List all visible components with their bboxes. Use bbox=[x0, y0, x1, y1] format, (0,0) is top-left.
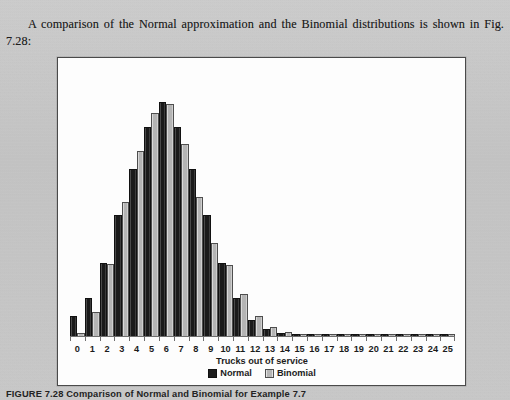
tick bbox=[307, 337, 322, 341]
x-tick-label: 6 bbox=[159, 343, 174, 355]
bar-normal-10 bbox=[218, 263, 225, 337]
bar-group bbox=[174, 86, 189, 337]
bar-group bbox=[85, 86, 100, 337]
chart-legend: NormalBinomial bbox=[65, 368, 459, 378]
tick bbox=[174, 337, 189, 341]
tick bbox=[100, 337, 115, 341]
bar-canvas bbox=[70, 86, 455, 337]
figure-caption: FIGURE 7.28 Comparison of Normal and Bin… bbox=[6, 389, 406, 399]
bar-group bbox=[159, 86, 174, 337]
bar-group bbox=[114, 86, 129, 337]
bar-binomial-4 bbox=[137, 151, 144, 337]
bar-binomial-7 bbox=[181, 144, 188, 337]
tick bbox=[263, 337, 278, 341]
legend-item-normal: Normal bbox=[208, 368, 252, 378]
bar-normal-12 bbox=[248, 320, 255, 337]
tick bbox=[218, 337, 233, 341]
tick bbox=[426, 337, 441, 341]
x-tick-label: 14 bbox=[277, 343, 292, 355]
tick bbox=[381, 337, 396, 341]
tick bbox=[337, 337, 352, 341]
bar-binomial-5 bbox=[151, 113, 158, 337]
bar-group bbox=[129, 86, 144, 337]
bar-normal-6 bbox=[159, 102, 166, 337]
bar-group bbox=[218, 86, 233, 337]
bar-group bbox=[426, 86, 441, 337]
legend-swatch-icon bbox=[265, 369, 274, 378]
bar-group bbox=[307, 86, 322, 337]
bar-binomial-10 bbox=[226, 265, 233, 337]
bar-group bbox=[144, 86, 159, 337]
bar-binomial-6 bbox=[166, 104, 173, 337]
bar-group bbox=[440, 86, 455, 337]
plot-area: 0123456789101112131415161718192021222324… bbox=[65, 62, 459, 337]
x-tick-label: 0 bbox=[70, 343, 85, 355]
figure-frame: 0123456789101112131415161718192021222324… bbox=[57, 57, 466, 386]
x-axis-title: Trucks out of service bbox=[65, 356, 459, 366]
bar-group bbox=[70, 86, 85, 337]
tick bbox=[277, 337, 292, 341]
tick bbox=[396, 337, 411, 341]
body-paragraph: A comparison of the Normal approximation… bbox=[6, 16, 504, 50]
legend-label: Binomial bbox=[277, 368, 316, 378]
x-axis-tick-labels: 0123456789101112131415161718192021222324… bbox=[70, 343, 455, 355]
tick bbox=[440, 337, 455, 341]
bar-binomial-9 bbox=[211, 243, 218, 337]
bar-group bbox=[322, 86, 337, 337]
x-tick-label: 13 bbox=[263, 343, 278, 355]
tick bbox=[129, 337, 144, 341]
x-tick-label: 8 bbox=[189, 343, 204, 355]
x-tick-label: 5 bbox=[144, 343, 159, 355]
x-tick-label: 24 bbox=[426, 343, 441, 355]
x-tick-label: 21 bbox=[381, 343, 396, 355]
x-tick-label: 17 bbox=[322, 343, 337, 355]
bar-binomial-3 bbox=[122, 202, 129, 337]
legend-item-binomial: Binomial bbox=[265, 368, 316, 378]
x-tick-label: 1 bbox=[85, 343, 100, 355]
tick bbox=[411, 337, 426, 341]
bar-group bbox=[233, 86, 248, 337]
bar-normal-0 bbox=[70, 316, 77, 337]
tick bbox=[203, 337, 218, 341]
x-tick-label: 12 bbox=[248, 343, 263, 355]
bar-normal-9 bbox=[203, 215, 210, 337]
bar-normal-11 bbox=[233, 298, 240, 337]
x-tick-label: 16 bbox=[307, 343, 322, 355]
bar-normal-4 bbox=[129, 169, 136, 337]
x-tick-label: 7 bbox=[174, 343, 189, 355]
bar-normal-8 bbox=[189, 169, 196, 337]
tick bbox=[322, 337, 337, 341]
tick bbox=[366, 337, 381, 341]
bar-group bbox=[100, 86, 115, 337]
x-tick-label: 10 bbox=[218, 343, 233, 355]
bar-group bbox=[351, 86, 366, 337]
x-tick-label: 23 bbox=[411, 343, 426, 355]
tick bbox=[70, 337, 85, 341]
bar-normal-2 bbox=[100, 263, 107, 337]
bar-group bbox=[337, 86, 352, 337]
bar-group bbox=[411, 86, 426, 337]
bar-group bbox=[203, 86, 218, 337]
tick bbox=[114, 337, 129, 341]
x-tick-label: 4 bbox=[129, 343, 144, 355]
bar-binomial-12 bbox=[255, 316, 262, 337]
bar-binomial-1 bbox=[92, 312, 99, 337]
x-tick-label: 19 bbox=[351, 343, 366, 355]
bar-group bbox=[263, 86, 278, 337]
x-tick-label: 2 bbox=[100, 343, 115, 355]
bar-group bbox=[189, 86, 204, 337]
x-axis-ticks bbox=[70, 337, 455, 341]
bar-group bbox=[248, 86, 263, 337]
bar-group bbox=[381, 86, 396, 337]
x-tick-label: 15 bbox=[292, 343, 307, 355]
x-tick-label: 3 bbox=[114, 343, 129, 355]
x-tick-label: 22 bbox=[396, 343, 411, 355]
bar-binomial-11 bbox=[240, 294, 247, 337]
tick bbox=[351, 337, 366, 341]
x-tick-label: 9 bbox=[203, 343, 218, 355]
tick bbox=[292, 337, 307, 341]
legend-swatch-icon bbox=[208, 369, 217, 378]
legend-label: Normal bbox=[220, 368, 252, 378]
tick bbox=[144, 337, 159, 341]
bar-normal-5 bbox=[144, 127, 151, 337]
